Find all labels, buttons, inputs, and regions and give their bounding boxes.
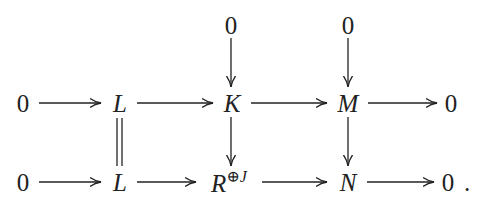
- node-zero-row1-left: 0: [17, 91, 30, 116]
- node-M: M: [338, 91, 359, 116]
- node-N: N: [340, 170, 357, 195]
- node-L-row2: L: [113, 170, 127, 195]
- node-zero-above-K: 0: [225, 13, 238, 38]
- index-J: J: [240, 168, 247, 185]
- direct-sum-symbol: ⊕: [226, 168, 239, 185]
- node-zero-row2-right: 0: [442, 170, 455, 195]
- node-zero-row2-left: 0: [17, 170, 30, 195]
- node-L-row1: L: [113, 91, 127, 116]
- node-zero-above-M: 0: [342, 13, 355, 38]
- R-superscript: ⊕J: [226, 168, 247, 185]
- R-base: R: [211, 170, 226, 197]
- node-R-direct-sum: R⊕J: [211, 169, 247, 196]
- commutative-diagram: 0 0 0 L K M 0 0 L R⊕J N 0 .: [0, 0, 486, 204]
- trailing-period: .: [464, 170, 470, 195]
- node-zero-row1-right: 0: [445, 91, 458, 116]
- node-K: K: [224, 91, 241, 116]
